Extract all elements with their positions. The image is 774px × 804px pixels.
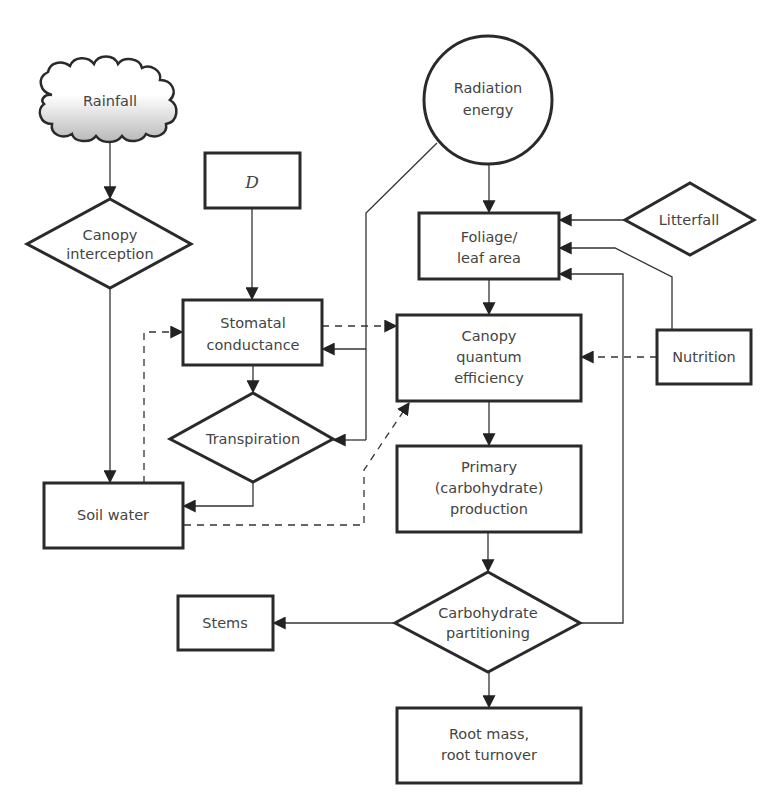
node-stems: Stems [178, 596, 273, 650]
stomatal-line2: conductance [206, 337, 299, 353]
flow-diagram: Rainfall Canopy interception D Radiation… [0, 0, 774, 804]
partitioning-line1: Carbohydrate [438, 605, 538, 621]
primary-line2: (carbohydrate) [435, 480, 544, 496]
node-primary-production: Primary (carbohydrate) production [397, 446, 581, 532]
node-carbohydrate-partitioning: Carbohydrate partitioning [395, 572, 580, 672]
node-root-mass: Root mass, root turnover [397, 708, 581, 783]
node-d: D [205, 153, 300, 208]
root-line1: Root mass, [449, 726, 529, 742]
cqe-line2: quantum [456, 349, 521, 365]
root-line2: root turnover [441, 747, 537, 763]
nutrition-label: Nutrition [672, 349, 736, 365]
node-soil-water: Soil water [44, 483, 183, 548]
radiation-line2: energy [463, 102, 514, 118]
partitioning-line2: partitioning [446, 625, 530, 641]
stomatal-line1: Stomatal [220, 315, 285, 331]
canopy-interception-line2: interception [66, 246, 153, 262]
node-canopy-quantum-efficiency: Canopy quantum efficiency [397, 315, 581, 401]
node-transpiration: Transpiration [170, 393, 333, 482]
stems-label: Stems [202, 615, 248, 631]
foliage-line1: Foliage/ [461, 229, 518, 245]
canopy-interception-line1: Canopy [83, 227, 138, 243]
transpiration-label: Transpiration [205, 431, 300, 447]
cqe-line1: Canopy [462, 328, 517, 344]
node-stomatal-conductance: Stomatal conductance [183, 300, 322, 365]
node-litterfall: Litterfall [625, 183, 754, 255]
foliage-line2: leaf area [457, 250, 521, 266]
cqe-line3: efficiency [454, 370, 524, 386]
node-foliage: Foliage/ leaf area [419, 213, 559, 279]
node-rainfall: Rainfall [40, 57, 177, 143]
primary-line1: Primary [461, 459, 517, 475]
edge-soil-water-to-stomatal [144, 332, 182, 483]
rainfall-label: Rainfall [83, 93, 137, 109]
litterfall-label: Litterfall [659, 212, 719, 228]
node-canopy-interception: Canopy interception [27, 199, 191, 288]
edge-transpiration-to-soil-water [184, 482, 253, 506]
d-label: D [244, 172, 259, 192]
node-radiation-energy: Radiation energy [424, 36, 552, 164]
soil-water-label: Soil water [77, 507, 149, 523]
radiation-line1: Radiation [454, 80, 523, 96]
primary-line3: production [450, 501, 528, 517]
node-nutrition: Nutrition [657, 330, 751, 384]
